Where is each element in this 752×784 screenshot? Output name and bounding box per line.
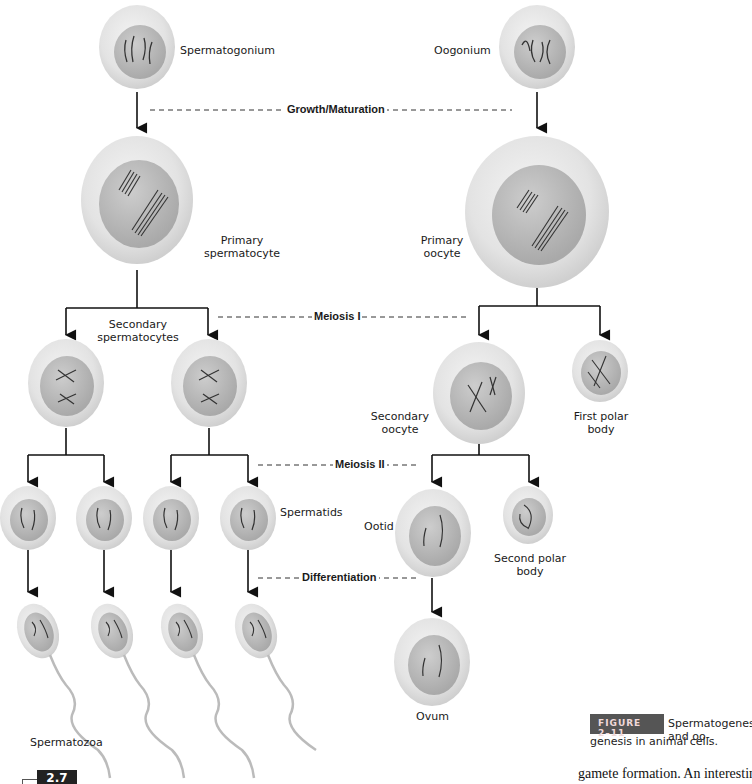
label-spermatids: Spermatids xyxy=(280,506,343,519)
cell-primary-oocyte xyxy=(465,136,609,288)
stage-growth-maturation: Growth/Maturation xyxy=(285,103,387,116)
cell-secondary-spermatocyte-1 xyxy=(28,339,104,427)
cell-oogonium xyxy=(499,5,575,89)
cell-second-polar-body xyxy=(503,486,553,544)
label-primary-oocyte: Primary oocyte xyxy=(412,234,472,260)
cell-secondary-spermatocyte-2 xyxy=(171,339,247,427)
label-first-polar-body: First polar body xyxy=(566,410,636,436)
figure-caption-line2: genesis in animal cells. xyxy=(590,735,718,748)
label-second-polar-body: Second polar body xyxy=(490,552,570,578)
stage-differentiation: Differentiation xyxy=(300,571,379,584)
label-secondary-oocyte: Secondary oocyte xyxy=(368,410,432,436)
label-ovum: Ovum xyxy=(416,710,449,723)
label-primary-spermatocyte: Primary spermatocyte xyxy=(196,234,288,260)
label-spermatogonium: Spermatogonium xyxy=(180,44,275,57)
label-secondary-spermatocytes: Secondary spermatocytes xyxy=(88,318,188,344)
cell-spermatid-2 xyxy=(76,486,132,550)
cell-spermatogonium xyxy=(99,5,175,89)
section-marker-line xyxy=(22,779,37,780)
cell-secondary-oocyte xyxy=(433,342,525,444)
cell-spermatid-4 xyxy=(220,486,276,550)
section-number-badge: 2.7 xyxy=(37,770,77,784)
body-text-line: gamete formation. An interesting questio… xyxy=(578,766,752,782)
diagram-canvas xyxy=(0,0,752,784)
stage-meiosis-1: Meiosis I xyxy=(312,310,362,323)
spermatozoon-4 xyxy=(228,598,316,750)
label-ootid: Ootid xyxy=(364,520,394,533)
cell-ootid xyxy=(395,489,471,577)
section-marker-tick xyxy=(22,779,23,784)
label-spermatozoa: Spermatozoa xyxy=(30,736,103,749)
cell-ovum xyxy=(394,618,470,706)
stage-meiosis-2: Meiosis II xyxy=(333,458,387,471)
figure-tag: FIGURE 2–11 xyxy=(590,714,664,734)
cell-spermatid-3 xyxy=(143,486,199,550)
cell-first-polar-body xyxy=(572,340,628,402)
cell-spermatid-1 xyxy=(0,486,56,550)
cell-primary-spermatocyte xyxy=(81,136,193,264)
label-oogonium: Oogonium xyxy=(434,44,491,57)
